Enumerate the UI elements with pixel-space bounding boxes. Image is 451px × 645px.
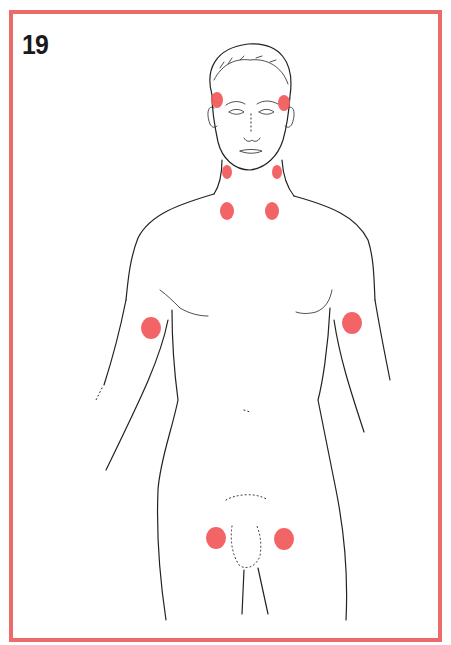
torso-right: [318, 308, 347, 620]
marker-upper-arm-right: [342, 312, 362, 334]
pubic-area: [226, 495, 268, 500]
arm-left-inner: [106, 320, 168, 470]
brow-left: [226, 102, 245, 106]
arm-left-outer: [104, 300, 126, 385]
eye-left: [229, 109, 244, 114]
body-outline-figure: [0, 0, 451, 645]
neck-right: [282, 160, 294, 196]
shoulder-left: [126, 194, 214, 300]
navel: [244, 410, 250, 412]
marker-jaw-right: [272, 165, 282, 179]
mouth: [240, 150, 262, 154]
marker-collarbone-left: [220, 202, 234, 220]
marker-groin-left: [206, 527, 226, 549]
arm-left-fingers: [96, 388, 102, 400]
arm-right-inner: [334, 320, 364, 432]
leg-left-inner: [242, 570, 244, 614]
shoulder-right: [294, 196, 375, 300]
marker-upper-arm-left: [141, 317, 161, 339]
marker-jaw-left: [222, 165, 232, 179]
nose: [244, 138, 260, 141]
leg-right-inner: [258, 568, 268, 614]
marker-groin-right: [274, 528, 294, 550]
neck-left: [214, 160, 222, 194]
genital-outline: [231, 524, 261, 568]
torso-left: [157, 310, 178, 620]
pec-left: [160, 290, 208, 316]
marker-collarbone-right: [265, 202, 279, 220]
brow-right: [257, 101, 278, 104]
eye-right: [259, 109, 274, 114]
arm-right-outer: [375, 300, 390, 380]
marker-temple-right: [278, 95, 290, 111]
pec-right: [296, 290, 332, 314]
hair-line: [214, 60, 288, 84]
marker-temple-left: [211, 92, 223, 108]
